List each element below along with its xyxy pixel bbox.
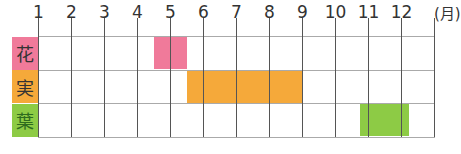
row-label-3: 葉 bbox=[12, 104, 38, 137]
grid-vline bbox=[269, 18, 270, 137]
month-label: 9 bbox=[286, 2, 319, 22]
month-label: 7 bbox=[220, 2, 253, 22]
grid-vline bbox=[170, 18, 171, 137]
month-label: 12 bbox=[385, 2, 418, 22]
grid-vline bbox=[401, 18, 402, 137]
month-label: 3 bbox=[88, 2, 121, 22]
month-label: 1 bbox=[22, 2, 55, 22]
month-label: 11 bbox=[352, 2, 385, 22]
month-label: 4 bbox=[121, 2, 154, 22]
grid-vline bbox=[335, 18, 336, 137]
grid-vline bbox=[104, 18, 105, 137]
month-label: 6 bbox=[187, 2, 220, 22]
row-label-1: 花 bbox=[12, 37, 38, 70]
grid-hline bbox=[38, 137, 435, 138]
month-label: 10 bbox=[319, 2, 352, 22]
grid-vline bbox=[137, 18, 138, 137]
grid-vline bbox=[302, 18, 303, 137]
unit-label: (月) bbox=[434, 2, 461, 23]
month-label: 5 bbox=[154, 2, 187, 22]
row-label-2: 実 bbox=[12, 70, 38, 103]
grid-vline bbox=[71, 18, 72, 137]
month-label: 2 bbox=[55, 2, 88, 22]
grid-vline bbox=[38, 18, 39, 137]
month-label: 8 bbox=[253, 2, 286, 22]
grid-vline bbox=[236, 18, 237, 137]
grid-vline bbox=[203, 18, 204, 137]
grid-vline bbox=[368, 18, 369, 137]
grid-vline bbox=[434, 18, 435, 137]
